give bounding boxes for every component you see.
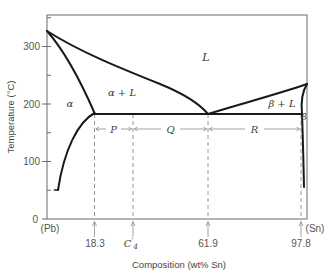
y-tick-0: 0 [32, 214, 38, 225]
y-tick-200: 200 [23, 99, 40, 110]
y-tick-300: 300 [23, 41, 40, 52]
x-axis-title: Composition (wt% Sn) [132, 259, 226, 270]
region-label-beta-liquid: β + L [267, 98, 296, 109]
phase-boundaries [47, 31, 307, 190]
phase-diagram-chart: 0 100 200 300 Temperature (°C) P Q [0, 0, 330, 275]
solidus-beta [302, 84, 307, 114]
composition-arrows [93, 222, 304, 238]
plot-frame [47, 15, 307, 219]
x-marker-c4-prime: C′4 [124, 236, 138, 251]
segment-label-p: P [109, 124, 117, 135]
solvus-alpha [58, 113, 95, 190]
y-axis-title: Temperature (°C) [5, 81, 16, 154]
x-end-label-pb: (Pb) [41, 223, 60, 234]
solvus-beta [302, 114, 304, 187]
x-end-label-sn: (Sn) [306, 223, 325, 234]
y-tick-100: 100 [23, 156, 40, 167]
region-label-liquid: L [201, 51, 209, 64]
segment-label-r: R [250, 124, 259, 135]
segment-label-q: Q [166, 124, 174, 135]
region-label-alpha: α [67, 98, 74, 109]
x-marker-61-9: 61.9 [198, 238, 218, 249]
region-label-beta: β [300, 112, 306, 122]
composition-guides [95, 114, 302, 219]
segment-arrows [96, 127, 300, 131]
x-marker-97-8: 97.8 [291, 238, 311, 249]
x-marker-18-3: 18.3 [85, 238, 105, 249]
region-label-alpha-liquid: α + L [108, 87, 136, 98]
